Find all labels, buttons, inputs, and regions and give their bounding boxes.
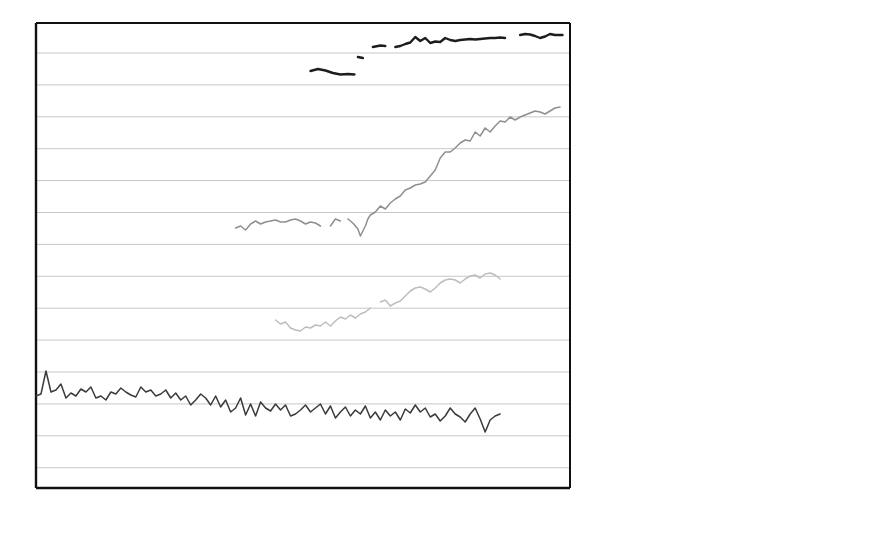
series-path <box>395 37 505 47</box>
series-path <box>236 219 321 230</box>
sea-level-records-figure <box>0 0 878 543</box>
series-path <box>36 371 500 432</box>
series-path <box>276 308 371 331</box>
plot-frame <box>36 23 570 488</box>
series-path <box>520 34 562 38</box>
series-nezugaseki <box>310 34 562 75</box>
series-path <box>373 46 385 48</box>
series-grand-isle <box>276 273 501 331</box>
series-bangkok <box>236 107 560 236</box>
series-path <box>330 219 340 226</box>
series-helsinki <box>36 371 500 432</box>
series-path <box>380 273 500 306</box>
series-path <box>348 107 560 236</box>
chart-svg <box>0 0 878 543</box>
gridlines <box>36 53 570 468</box>
series-path <box>358 57 363 58</box>
series-path <box>310 69 354 75</box>
